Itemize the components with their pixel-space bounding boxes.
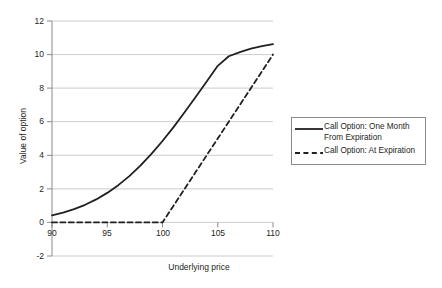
x-tick-label-90: 90 bbox=[42, 229, 62, 238]
legend-item-one-month: Call Option: One Month From Expiration bbox=[292, 122, 425, 143]
chart-legend: Call Option: One Month From Expiration C… bbox=[291, 117, 426, 165]
y-tick-label-0: 0 bbox=[18, 218, 44, 227]
y-tick-label-10: 10 bbox=[18, 50, 44, 59]
x-tick-label-110: 110 bbox=[262, 229, 284, 238]
series-one-month bbox=[52, 44, 273, 215]
y-tick-label-12: 12 bbox=[18, 17, 44, 26]
legend-label-one-month: Call Option: One Month From Expiration bbox=[323, 122, 410, 143]
x-axis-title: Underlying price bbox=[104, 262, 294, 272]
legend-item-at-expiration: Call Option: At Expiration bbox=[292, 146, 425, 157]
y-axis-title: Value of option bbox=[18, 91, 28, 181]
x-tick-label-105: 105 bbox=[207, 229, 229, 238]
legend-solid-line-icon bbox=[295, 127, 323, 131]
legend-label-at-expiration: Call Option: At Expiration bbox=[323, 146, 415, 157]
x-tick-label-95: 95 bbox=[97, 229, 117, 238]
x-tick-label-100: 100 bbox=[152, 229, 174, 238]
y-axis-ticks bbox=[47, 21, 52, 256]
option-value-chart: 12 10 8 6 4 2 0 -2 90 95 100 105 110 Und… bbox=[0, 0, 442, 288]
gridlines bbox=[52, 21, 273, 256]
series-at-expiration bbox=[52, 55, 273, 223]
legend-dashed-line-icon bbox=[295, 151, 323, 155]
y-tick-label-2: 2 bbox=[18, 185, 44, 194]
y-tick-label-minus2: -2 bbox=[18, 252, 44, 261]
